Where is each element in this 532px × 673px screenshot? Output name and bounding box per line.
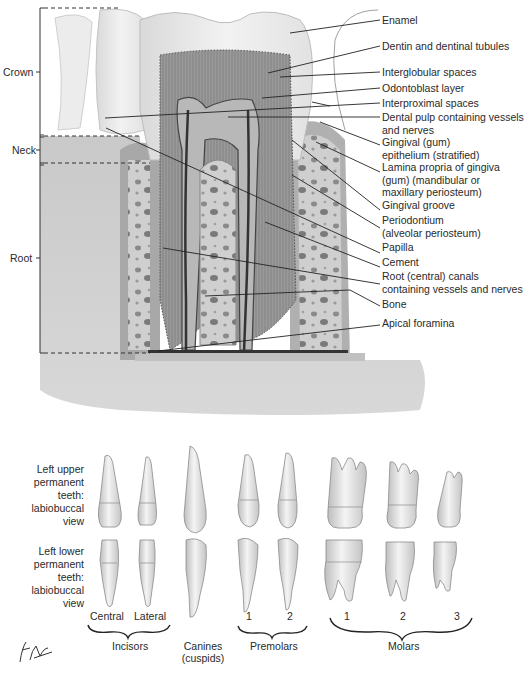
group-label-premolars: Premolars	[250, 640, 298, 652]
label-interglobular-spaces: Interglobular spaces	[382, 66, 477, 79]
label-cement: Cement	[382, 256, 419, 269]
netter-signature	[20, 642, 52, 662]
sublabel-molar-1: 1	[344, 610, 350, 622]
group-label-molars: Molars	[388, 640, 420, 652]
label-periodontium: Periodontium(alveolar periosteum)	[382, 214, 481, 239]
row-label-upper-teeth: Left upper permanent teeth: labiobuccal …	[20, 463, 84, 528]
label-dental-pulp: Dental pulp containing vesselsand nerves	[382, 111, 524, 136]
label-papilla: Papilla	[382, 241, 414, 254]
label-gingival-groove: Gingival groove	[382, 199, 455, 212]
region-label-neck: Neck	[12, 144, 36, 156]
sublabel-premolar-2: 2	[287, 610, 293, 622]
label-root-canals: Root (central) canalscontaining vessels …	[382, 270, 523, 295]
region-label-root: Root	[10, 252, 32, 264]
sublabel-molar-3: 3	[454, 610, 460, 622]
label-gingival-epithelium: Gingival (gum)epithelium (stratified)	[382, 136, 479, 161]
label-bone: Bone	[382, 298, 407, 311]
group-label-incisors: Incisors	[112, 640, 148, 652]
sublabel-lateral: Lateral	[134, 610, 166, 622]
label-odontoblast-layer: Odontoblast layer	[382, 82, 464, 95]
label-lamina-propria: Lamina propria of gingiva(gum) (mandibul…	[382, 161, 500, 199]
sublabel-central: Central	[90, 610, 124, 622]
group-label-canines: Canines (cuspids)	[180, 640, 226, 664]
row-label-lower-teeth: Left lower permanent teeth: labiobuccal …	[20, 545, 84, 610]
sublabel-premolar-1: 1	[246, 610, 252, 622]
sublabel-molar-2: 2	[400, 610, 406, 622]
label-dentin: Dentin and dentinal tubules	[382, 40, 509, 53]
label-interproximal-spaces: Interproximal spaces	[382, 97, 479, 110]
label-enamel: Enamel	[382, 14, 418, 27]
label-apical-foramina: Apical foramina	[382, 317, 454, 330]
region-label-crown: Crown	[3, 66, 33, 78]
